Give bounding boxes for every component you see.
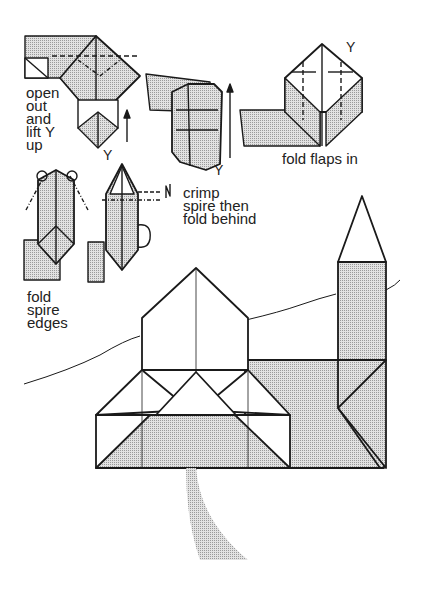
svg-text:Y: Y: [346, 39, 356, 55]
step-crimp-figure: [88, 164, 170, 282]
crimp-label: crimp spire then fold behind: [183, 186, 256, 225]
fold-flaps-label: fold flaps in: [282, 152, 358, 165]
open-out-label: open out and lift Y up: [26, 86, 59, 151]
step-fold-spire-edges-figure: [24, 170, 88, 280]
svg-text:Y: Y: [214, 162, 224, 178]
step-lift-figure: Y: [146, 74, 233, 178]
step-fold-flaps-figure: Y: [240, 39, 362, 146]
svg-text:Y: Y: [103, 147, 113, 163]
church-model: [96, 196, 386, 470]
fold-spire-edges-label: fold spire edges: [27, 290, 68, 329]
